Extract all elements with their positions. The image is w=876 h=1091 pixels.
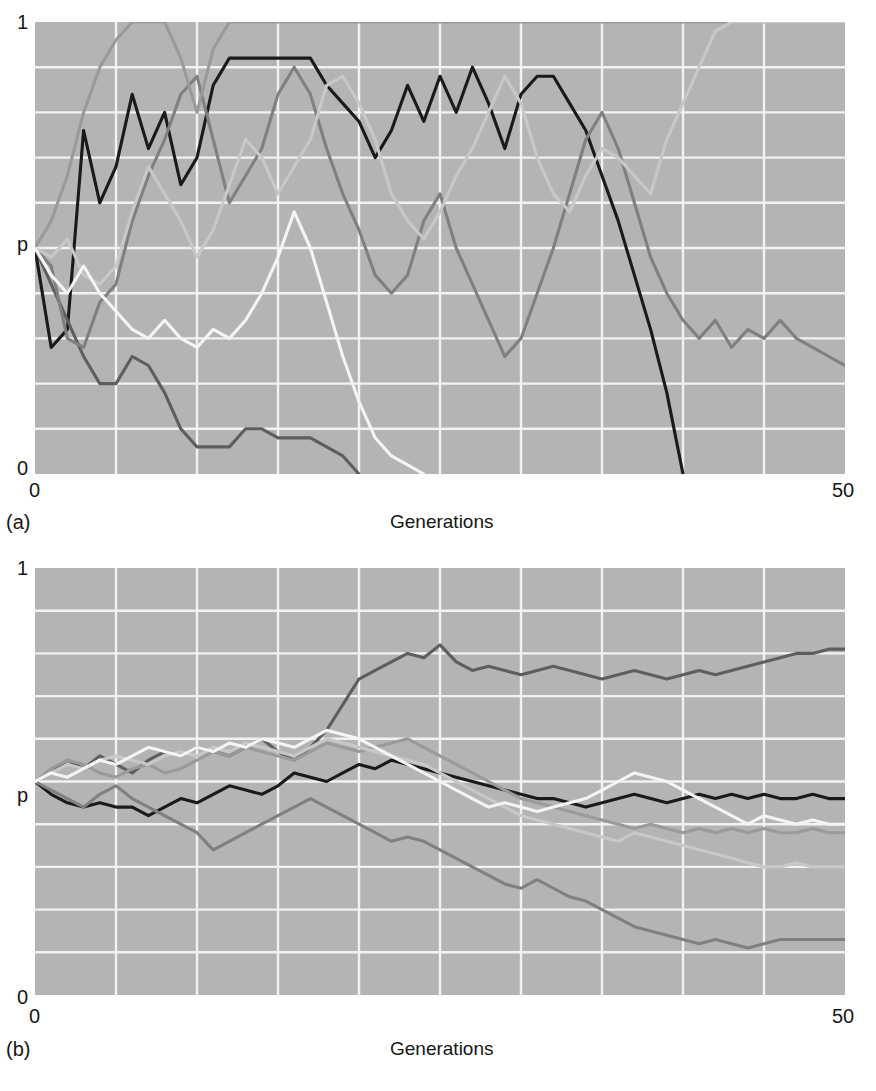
panel-a-letter: (a) <box>6 512 30 532</box>
panel-a: 1 p 0 0 50 (a) Generations <box>0 0 876 540</box>
panel-a-xtick-50: 50 <box>832 480 854 500</box>
panel-b-xtick-0: 0 <box>29 1006 40 1026</box>
panel-a-plot-area <box>35 22 845 474</box>
panel-b-letter: (b) <box>6 1039 30 1059</box>
gridlines <box>35 22 845 474</box>
panel-b-ytick-0: 0 <box>2 987 28 1007</box>
panel-a-xtick-0: 0 <box>29 480 40 500</box>
panel-b-ytick-1: 1 <box>2 558 28 578</box>
panel-b-axis-title: Generations <box>390 1039 494 1058</box>
panel-a-lines <box>35 22 845 474</box>
panel-b-plot-area <box>35 568 845 995</box>
panel-a-ytick-0: 0 <box>2 458 28 478</box>
panel-b-ytick-p: p <box>2 785 28 805</box>
panel-b-lines <box>35 568 845 995</box>
panel-b: 1 p 0 0 50 (b) Generations <box>0 545 876 1091</box>
panel-a-axis-title: Generations <box>390 512 494 531</box>
panel-a-ytick-p: p <box>2 234 28 254</box>
panel-a-ytick-1: 1 <box>2 12 28 32</box>
panel-b-xtick-50: 50 <box>832 1006 854 1026</box>
